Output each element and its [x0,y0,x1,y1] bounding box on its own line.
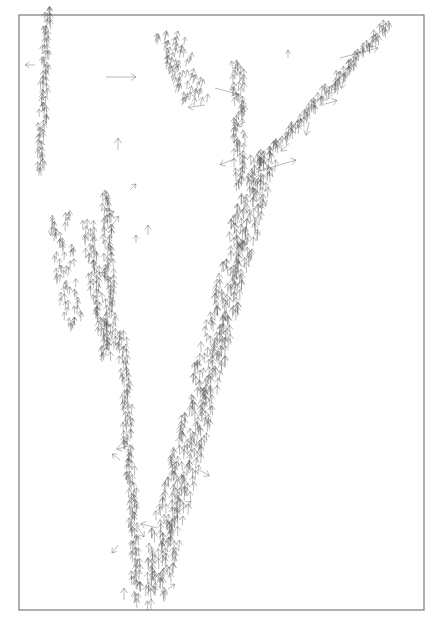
vector-arrow [185,463,192,474]
vector-arrow [172,48,178,57]
vector-arrow [254,192,261,202]
vector-arrow [281,143,290,151]
vector-arrow [198,88,203,95]
vector-arrow [177,445,183,455]
vector-arrow [129,430,134,439]
vector-arrow [190,373,196,383]
vector-arrow [141,522,158,529]
vector-arrow [210,321,217,331]
vector-arrow [124,337,129,345]
vector-arrow [170,563,177,574]
vector-arrow [218,330,225,341]
vector-arrow [153,511,159,521]
vector-arrow [121,588,128,600]
vector-arrow [247,155,254,165]
vector-arrow [177,49,183,58]
vector-arrow [169,563,176,574]
vector-arrow [160,591,167,602]
vector-arrow [95,327,101,336]
vector-arrow [78,312,84,321]
vector-arrow [36,123,41,131]
vector-arrow [182,37,187,45]
plot-frame [19,15,424,610]
vector-arrow [73,279,79,288]
vector-arrow [227,232,233,242]
vector-arrow [106,74,136,81]
vector-arrow [286,50,291,58]
vector-arrow [231,118,237,127]
vector-arrow [250,197,256,207]
vector-arrow [188,394,194,404]
vector-arrow [62,252,67,260]
vector-arrow [91,221,96,230]
vector-arrow [200,368,206,378]
vector-arrow [187,491,193,500]
vector-arrow [162,481,169,492]
vector-arrow [37,109,42,117]
vector-arrow [230,75,236,85]
vector-arrow [137,526,144,537]
vector-arrow [42,161,47,169]
vector-arrow [161,587,168,598]
vector-arrow [238,66,244,75]
vector-arrow [240,119,245,128]
vector-arrow [181,49,186,57]
vector-arrow [126,489,132,498]
vector-arrow [102,240,108,249]
vector-arrow [194,452,201,463]
vector-arrow [25,62,35,68]
vector-arrow [99,203,104,211]
vector-arrow [115,138,122,150]
vector-arrow [83,248,89,258]
vector-arrow [237,122,245,127]
vector-arrow [241,201,247,210]
vector-arrow [222,330,228,340]
vector-arrow [54,276,59,284]
vector-arrow [62,222,68,231]
vector-arrow [67,211,73,220]
vector-arrow [58,298,63,306]
vector-arrow [90,279,96,288]
vector-arrow [376,36,382,46]
vector-arrow [41,120,46,129]
vector-arrow [199,97,204,105]
vector-arrow [231,148,237,157]
vector-arrow [206,359,212,368]
vector-arrow [228,246,234,256]
vector-arrow [192,412,198,421]
vector-arrow [107,352,113,362]
vector-arrow [161,483,167,492]
vector-arrow [241,83,247,93]
vector-arrow [304,122,311,135]
vector-arrow [242,134,248,144]
vector-arrow [191,482,197,492]
vector-arrow [137,564,143,574]
vector-arrow [69,250,73,257]
vector-arrow [228,251,235,262]
vector-arrow [91,227,97,236]
vector-arrow [196,89,202,98]
vector-arrow [168,455,174,464]
vector-arrow [192,470,198,480]
vector-arrow [163,504,169,514]
vector-arrow [163,553,170,563]
vector-arrow [272,160,279,171]
vector-arrow [188,73,193,81]
vector-arrow [231,158,237,167]
vector-arrow [205,94,211,103]
vector-arrow [198,342,205,353]
vector-arrow [62,294,67,303]
vector-arrow [244,194,250,204]
vector-arrow [157,520,163,530]
vector-arrow [60,245,65,253]
vector-arrow [155,558,162,569]
vector-arrow [99,353,105,362]
vector-arrow [101,253,106,261]
vector-arrow [231,70,237,79]
vector-arrow [227,334,234,345]
vector-arrow [72,259,77,267]
vector-arrow [102,228,108,238]
vector-arrow [194,387,200,396]
vector-arrow [245,256,252,267]
vector-arrow [184,59,189,66]
